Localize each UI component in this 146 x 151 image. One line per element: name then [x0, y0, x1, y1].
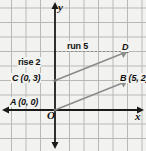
rise-label: rise 2 — [17, 57, 41, 67]
point-c-label: C (0, 3) — [11, 73, 41, 83]
point-a-label: A (0, 0) — [9, 97, 39, 107]
point-b-label: B (5, 2) — [119, 73, 146, 83]
point-c-marker — [53, 79, 56, 82]
point-d-label: D — [121, 42, 129, 52]
slope-graph-figure: run 5 rise 2 C (0, 3) D B (5, 2) A (0, 0… — [0, 0, 146, 151]
run-label: run 5 — [66, 41, 89, 51]
y-axis-label: y — [58, 2, 63, 13]
origin-label: O — [47, 110, 55, 121]
x-axis-label: x — [135, 111, 141, 122]
